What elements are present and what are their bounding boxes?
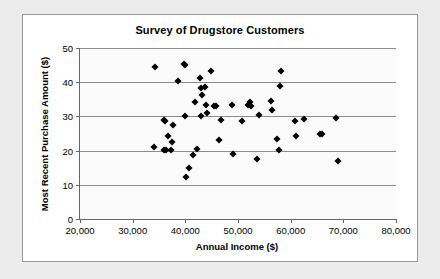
scatter-point <box>164 132 171 139</box>
scatter-point <box>238 118 245 125</box>
scatter-point <box>334 157 341 164</box>
scatter-point <box>182 62 189 69</box>
y-tick-label: 30 <box>62 111 73 122</box>
scatter-point <box>185 165 192 172</box>
x-tick-mark <box>80 219 81 223</box>
scatter-point <box>197 74 204 81</box>
x-tick-label: 40,000 <box>171 225 200 236</box>
plot-area: 01020304050 20,00030,00040,00050,00060,0… <box>79 48 396 220</box>
scatter-point <box>215 136 222 143</box>
x-tick-mark <box>396 219 397 223</box>
x-tick-mark <box>185 219 186 223</box>
scatter-point <box>150 143 157 150</box>
scatter-point <box>278 67 285 74</box>
y-tick-mark <box>76 185 80 186</box>
x-tick-label: 60,000 <box>276 225 305 236</box>
gridline <box>80 82 396 83</box>
scatter-point <box>291 117 298 124</box>
y-tick-mark <box>76 151 80 152</box>
gridline <box>80 151 396 152</box>
scatter-point <box>170 122 177 129</box>
y-tick-label: 50 <box>62 43 73 54</box>
y-tick-label: 40 <box>62 77 73 88</box>
x-tick-mark <box>238 219 239 223</box>
scatter-point <box>161 118 168 125</box>
scatter-point <box>151 64 158 71</box>
scatter-point <box>273 135 280 142</box>
scatter-point <box>228 101 235 108</box>
scatter-point <box>332 114 339 121</box>
x-tick-label: 30,000 <box>118 225 147 236</box>
x-tick-label: 50,000 <box>223 225 252 236</box>
y-tick-mark <box>76 82 80 83</box>
x-tick-mark <box>133 219 134 223</box>
scatter-point <box>192 98 199 105</box>
scatter-point <box>276 146 283 153</box>
chart-panel: Survey of Drugstore Customers Most Recen… <box>22 14 418 262</box>
scatter-point <box>293 132 300 139</box>
y-tick-label: 10 <box>62 179 73 190</box>
scatter-point <box>181 112 188 119</box>
y-tick-mark <box>76 116 80 117</box>
gridline <box>80 48 396 49</box>
scatter-point <box>168 147 175 154</box>
scatter-point <box>255 112 262 119</box>
x-axis-title: Annual Income ($) <box>79 241 395 252</box>
scatter-point <box>268 107 275 114</box>
y-tick-label: 20 <box>62 145 73 156</box>
gridline <box>80 116 396 117</box>
scatter-point <box>203 102 210 109</box>
x-tick-label: 20,000 <box>65 225 94 236</box>
scatter-point <box>202 83 209 90</box>
scatter-point <box>183 173 190 180</box>
x-tick-label: 80,000 <box>381 225 410 236</box>
y-tick-mark <box>76 48 80 49</box>
scatter-point <box>189 151 196 158</box>
scatter-point <box>267 98 274 105</box>
x-tick-label: 70,000 <box>329 225 358 236</box>
y-axis-title: Most Recent Purchase Amount ($) <box>31 48 59 219</box>
x-tick-mark <box>343 219 344 223</box>
y-axis-title-label: Most Recent Purchase Amount ($) <box>39 56 51 210</box>
scatter-point <box>248 103 255 110</box>
y-tick-label: 0 <box>68 214 73 225</box>
scatter-point <box>207 67 214 74</box>
scatter-point <box>169 139 176 146</box>
scatter-point <box>217 117 224 124</box>
scatter-point <box>198 91 205 98</box>
x-tick-mark <box>291 219 292 223</box>
scatter-point <box>254 156 261 163</box>
chart-title: Survey of Drugstore Customers <box>23 24 417 36</box>
scatter-point <box>276 82 283 89</box>
gridline <box>80 185 396 186</box>
scatter-point <box>175 77 182 84</box>
